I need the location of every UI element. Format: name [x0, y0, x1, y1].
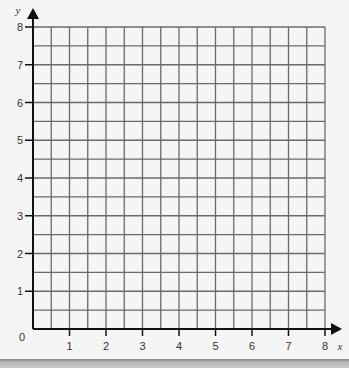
- y-tick-label: 1: [17, 285, 23, 297]
- x-axis-label: x: [337, 340, 343, 352]
- x-axis-arrow-icon: [331, 323, 342, 335]
- axis-ticks: 1234567812345678: [17, 21, 328, 352]
- axes: [27, 8, 342, 335]
- x-tick-label: 3: [139, 340, 145, 352]
- y-tick-label: 7: [17, 59, 23, 71]
- x-tick-label: 2: [103, 340, 109, 352]
- y-tick-label: 3: [17, 210, 23, 222]
- x-tick-label: 1: [66, 340, 72, 352]
- y-tick-label: 5: [17, 134, 23, 146]
- y-tick-label: 8: [17, 21, 23, 33]
- grid-lines: [33, 27, 325, 329]
- x-tick-label: 8: [322, 340, 328, 352]
- bottom-edge: [0, 359, 349, 368]
- x-tick-label: 5: [212, 340, 218, 352]
- y-axis-label: y: [15, 4, 21, 16]
- x-tick-label: 4: [176, 340, 182, 352]
- y-tick-label: 2: [17, 248, 23, 260]
- x-tick-label: 6: [249, 340, 255, 352]
- coordinate-grid: 1234567812345678 0 y x: [0, 0, 349, 368]
- y-tick-label: 6: [17, 97, 23, 109]
- x-tick-label: 7: [285, 340, 291, 352]
- y-tick-label: 4: [17, 172, 23, 184]
- y-axis-arrow-icon: [27, 8, 39, 19]
- origin-label: 0: [19, 331, 25, 343]
